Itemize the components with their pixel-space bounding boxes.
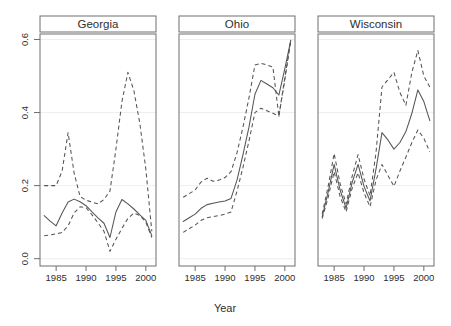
panel-wisconsin: Wisconsin1985199019952000 — [318, 16, 434, 283]
y-tick-label: 0.6 — [19, 33, 30, 46]
x-tick-label: 1990 — [353, 272, 374, 283]
series-line-lower — [44, 207, 152, 252]
x-axis-title: Year — [214, 302, 237, 314]
series-line-estimate — [183, 40, 291, 221]
series-group — [322, 50, 430, 218]
y-tick-label: 0.4 — [19, 106, 30, 119]
x-tick-label: 1985 — [324, 272, 345, 283]
x-tick-label: 1995 — [105, 272, 126, 283]
panel-georgia: Georgia1985199019952000 — [40, 16, 156, 283]
y-axis: 0.00.20.40.6 — [19, 33, 40, 265]
x-tick-label: 2000 — [274, 272, 295, 283]
x-tick-label: 1985 — [185, 272, 206, 283]
panel-strip-label: Ohio — [225, 18, 249, 30]
panel-strip-label: Wisconsin — [350, 18, 402, 30]
x-tick-label: 1995 — [244, 272, 265, 283]
x-tick-label: 1990 — [214, 272, 235, 283]
series-line-lower — [183, 40, 291, 232]
panel-ohio: Ohio1985199019952000 — [179, 16, 295, 283]
x-tick-label: 2000 — [135, 272, 156, 283]
y-tick-label: 0.2 — [19, 179, 30, 192]
x-tick-label: 2000 — [413, 272, 434, 283]
series-group — [183, 40, 291, 232]
series-group — [44, 72, 152, 251]
x-tick-label: 1985 — [46, 272, 67, 283]
trellis-line-chart: 0.00.20.40.6 Georgia1985199019952000Ohio… — [0, 0, 451, 326]
series-line-upper — [183, 40, 291, 197]
panel-strip-label: Georgia — [78, 18, 120, 30]
series-line-upper — [44, 72, 152, 231]
panel-frame — [40, 34, 156, 266]
series-line-estimate — [44, 199, 152, 237]
x-tick-label: 1995 — [383, 272, 404, 283]
x-tick-label: 1990 — [75, 272, 96, 283]
y-tick-label: 0.0 — [19, 252, 30, 265]
panel-frame — [179, 34, 295, 266]
chart-figure: 0.00.20.40.6 Georgia1985199019952000Ohio… — [0, 0, 451, 326]
panels-container: Georgia1985199019952000Ohio1985199019952… — [40, 16, 434, 283]
series-line-lower — [322, 130, 430, 218]
series-line-estimate — [322, 90, 430, 217]
